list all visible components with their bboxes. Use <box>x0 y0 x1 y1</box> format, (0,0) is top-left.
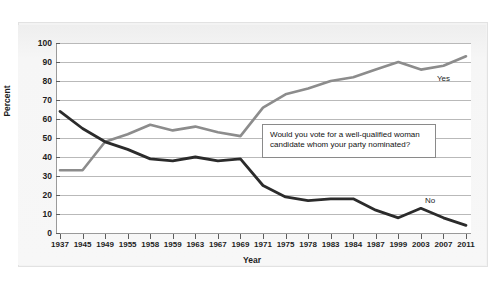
x-tick-mark <box>105 234 106 239</box>
x-tick-label: 1975 <box>275 241 297 249</box>
x-tick-label: 1971 <box>252 241 274 249</box>
x-tick-label: 1945 <box>72 241 94 249</box>
x-tick-mark <box>443 234 444 239</box>
y-tick-mark <box>56 176 60 177</box>
y-tick-mark <box>56 62 60 63</box>
y-tick-mark <box>56 195 60 196</box>
x-tick-mark <box>331 234 332 239</box>
chart-figure: 0102030405060708090100 Percent Year Woul… <box>0 0 504 289</box>
x-tick-label: 1969 <box>229 241 251 249</box>
x-tick-label: 1967 <box>207 241 229 249</box>
x-tick-label: 2011 <box>455 241 477 249</box>
x-tick-mark <box>195 234 196 239</box>
y-tick-mark <box>56 138 60 139</box>
x-tick-label: 1963 <box>184 241 206 249</box>
x-tick-mark <box>398 234 399 239</box>
x-tick-mark <box>376 234 377 239</box>
x-tick-mark <box>353 234 354 239</box>
y-tick-mark <box>56 100 60 101</box>
y-tick-mark <box>56 43 60 44</box>
x-tick-mark <box>83 234 84 239</box>
x-tick-mark <box>240 234 241 239</box>
x-tick-mark <box>128 234 129 239</box>
x-tick-label: 1949 <box>94 241 116 249</box>
x-tick-mark <box>150 234 151 239</box>
x-tick-label: 1978 <box>297 241 319 249</box>
x-tick-label: 1987 <box>365 241 387 249</box>
x-tick-mark <box>466 234 467 239</box>
x-tick-label: 2007 <box>432 241 454 249</box>
y-tick-mark <box>56 214 60 215</box>
x-tick-mark <box>263 234 264 239</box>
x-tick-label: 1983 <box>320 241 342 249</box>
y-tick-mark <box>56 119 60 120</box>
x-tick-label: 1959 <box>162 241 184 249</box>
x-tick-label: 1984 <box>342 241 364 249</box>
question-annotation-box: Would you vote for a well-qualified woma… <box>262 124 436 158</box>
y-tick-mark <box>56 157 60 158</box>
x-tick-mark <box>286 234 287 239</box>
x-tick-label: 1937 <box>49 241 71 249</box>
question-annotation-text: Would you vote for a well-qualified woma… <box>270 130 420 149</box>
x-tick-mark <box>60 234 61 239</box>
series-label-yes: Yes <box>437 74 450 83</box>
x-tick-label: 1999 <box>387 241 409 249</box>
x-tick-mark <box>173 234 174 239</box>
x-tick-label: 1955 <box>117 241 139 249</box>
x-tick-label: 2003 <box>410 241 432 249</box>
x-tick-label: 1958 <box>139 241 161 249</box>
x-tick-mark <box>218 234 219 239</box>
x-tick-mark <box>421 234 422 239</box>
x-tick-mark <box>308 234 309 239</box>
y-tick-mark <box>56 81 60 82</box>
series-label-no: No <box>425 196 435 205</box>
